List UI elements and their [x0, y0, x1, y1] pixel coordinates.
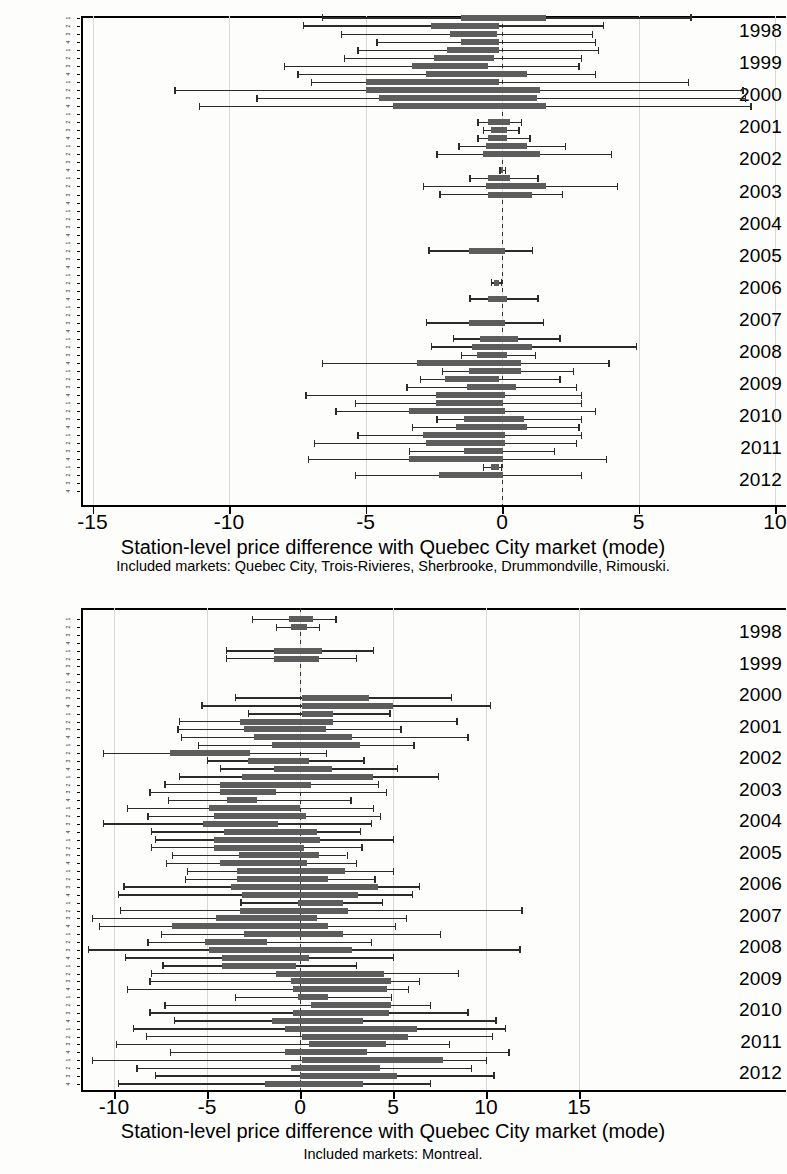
boxplot-row: [0, 939, 786, 946]
quarter-tick-label: 3: [66, 482, 71, 485]
whisker-cap: [322, 14, 323, 21]
whisker-cap: [147, 939, 148, 946]
boxplot-row: [0, 47, 786, 54]
whisker-cap: [492, 1033, 493, 1040]
whisker-cap: [554, 448, 555, 455]
interquartile-box: [302, 711, 334, 717]
interquartile-box: [293, 1010, 390, 1016]
whisker-cap: [125, 954, 126, 961]
whisker-cap: [151, 844, 152, 851]
whisker-cap: [335, 408, 336, 415]
interquartile-box: [265, 1081, 364, 1087]
interquartile-box: [445, 376, 500, 382]
boxplot-row: [0, 31, 786, 38]
whisker-cap: [311, 79, 312, 86]
whisker-cap: [397, 765, 398, 772]
interquartile-box: [461, 15, 546, 21]
interquartile-box: [272, 1018, 363, 1024]
whisker-cap: [103, 820, 104, 827]
whisker-cap: [592, 31, 593, 38]
interquartile-box: [491, 127, 507, 133]
quarter-tick-label: 2: [66, 217, 71, 220]
interquartile-box: [205, 939, 266, 945]
whisker-cap: [406, 915, 407, 922]
whisker-cap: [252, 616, 253, 623]
whisker-cap: [88, 946, 89, 953]
quarter-tick-mark: [77, 690, 80, 691]
interquartile-box: [203, 821, 277, 827]
whisker-cap: [103, 750, 104, 757]
interquartile-box: [298, 994, 328, 1000]
quarter-tick-mark: [77, 483, 80, 484]
whisker-cap: [187, 868, 188, 875]
whisker-cap: [745, 95, 746, 102]
interquartile-box: [244, 931, 343, 937]
quarter-tick-mark: [77, 635, 80, 636]
whisker-cap: [344, 55, 345, 62]
whisker-cap: [449, 1041, 450, 1048]
whisker-cap: [276, 624, 277, 631]
interquartile-box: [227, 797, 257, 803]
quarter-tick-label: 4: [66, 673, 71, 676]
whisker-cap: [469, 175, 470, 182]
whisker-cap: [360, 828, 361, 835]
whisker-cap: [529, 135, 530, 142]
whisker-cap: [412, 891, 413, 898]
boxplot-row: [0, 647, 786, 654]
whisker-cap: [501, 279, 502, 286]
boxplot-row: [0, 95, 786, 102]
x-axis-line: [81, 505, 786, 507]
interquartile-box: [209, 947, 352, 953]
boxplot-row: [0, 710, 786, 717]
whisker-cap: [636, 343, 637, 350]
boxplot-row: [0, 103, 786, 110]
boxplot-row: [0, 440, 786, 447]
interquartile-box: [170, 750, 250, 756]
interquartile-box: [231, 884, 378, 890]
interquartile-box: [216, 915, 316, 921]
boxplot-row: [0, 87, 786, 94]
x-axis-tick-label: 10: [763, 511, 786, 532]
whisker-cap: [174, 1017, 175, 1024]
interquartile-box: [439, 472, 503, 478]
whisker-cap: [174, 87, 175, 94]
x-axis-tick-label: 0: [496, 511, 508, 532]
interquartile-box: [240, 719, 333, 725]
whisker-cap: [581, 392, 582, 399]
whisker-cap: [565, 143, 566, 150]
boxplot-row: [0, 39, 786, 46]
boxplot-row: [0, 22, 786, 29]
whisker-cap: [483, 127, 484, 134]
whisker-cap: [581, 416, 582, 423]
whisker-cap: [164, 781, 165, 788]
quarter-tick-label: 3: [66, 634, 71, 637]
whisker-cap: [559, 376, 560, 383]
quarter-tick-mark: [77, 211, 80, 212]
whisker-cap: [198, 742, 199, 749]
boxplot-row: [0, 962, 786, 969]
boxplot-row: [0, 247, 786, 254]
quarter-tick-label: 2: [66, 689, 71, 692]
interquartile-box: [436, 400, 503, 406]
interquartile-box: [483, 151, 540, 157]
whisker-cap: [559, 335, 560, 342]
whisker-line: [116, 1044, 449, 1045]
whisker-cap: [127, 805, 128, 812]
whisker-cap: [181, 734, 182, 741]
x-axis-line: [81, 1090, 786, 1092]
interquartile-box: [472, 344, 532, 350]
boxplot-row: [0, 883, 786, 890]
boxplot-row: [0, 820, 786, 827]
quarter-tick-mark: [77, 491, 80, 492]
boxplot-row: [0, 368, 786, 375]
whisker-cap: [742, 87, 743, 94]
boxplot-row: [0, 384, 786, 391]
interquartile-box: [477, 352, 507, 358]
whisker-cap: [248, 710, 249, 717]
whisker-cap: [439, 191, 440, 198]
whisker-cap: [123, 883, 124, 890]
whisker-cap: [532, 247, 533, 254]
quarter-tick-mark: [77, 674, 80, 675]
boxplot-row: [0, 1041, 786, 1048]
whisker-cap: [118, 1080, 119, 1087]
